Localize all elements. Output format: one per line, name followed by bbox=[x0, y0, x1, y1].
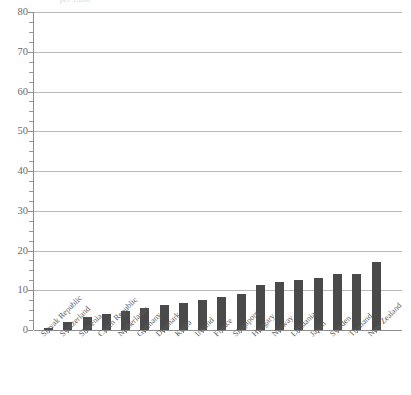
gridline-30 bbox=[34, 211, 402, 212]
y-minor-tick bbox=[29, 32, 33, 33]
gridline-80 bbox=[34, 12, 402, 13]
gridline-70 bbox=[34, 52, 402, 53]
y-minor-tick bbox=[29, 231, 33, 232]
y-tick-label-80: 80 bbox=[4, 7, 28, 17]
y-minor-tick bbox=[29, 270, 33, 271]
y-tick-label-70: 70 bbox=[4, 47, 28, 57]
y-tick-40 bbox=[28, 171, 33, 172]
y-minor-tick bbox=[29, 310, 33, 311]
gridline-20 bbox=[34, 251, 402, 252]
y-minor-tick bbox=[29, 151, 33, 152]
x-axis-labels: Slovak RepublicSwitzerlandSloveniaCzech … bbox=[0, 330, 411, 395]
y-minor-tick bbox=[29, 141, 33, 142]
y-tick-60 bbox=[28, 92, 33, 93]
y-minor-tick bbox=[29, 241, 33, 242]
bar-chart: per 1,000 01020304050607080 Slovak Repub… bbox=[0, 0, 411, 395]
y-tick-label-30: 30 bbox=[4, 206, 28, 216]
y-tick-80 bbox=[28, 12, 33, 13]
gridline-40 bbox=[34, 171, 402, 172]
y-minor-tick bbox=[29, 72, 33, 73]
y-minor-tick bbox=[29, 42, 33, 43]
y-minor-tick bbox=[29, 111, 33, 112]
y-minor-tick bbox=[29, 101, 33, 102]
y-minor-tick bbox=[29, 201, 33, 202]
title-fragment: per 1,000 bbox=[60, 0, 260, 4]
y-minor-tick bbox=[29, 320, 33, 321]
y-tick-label-60: 60 bbox=[4, 87, 28, 97]
y-tick-label-20: 20 bbox=[4, 246, 28, 256]
y-tick-70 bbox=[28, 52, 33, 53]
y-tick-20 bbox=[28, 251, 33, 252]
y-tick-30 bbox=[28, 211, 33, 212]
gridline-50 bbox=[34, 131, 402, 132]
y-minor-tick bbox=[29, 161, 33, 162]
y-minor-tick bbox=[29, 280, 33, 281]
y-tick-50 bbox=[28, 131, 33, 132]
y-minor-tick bbox=[29, 191, 33, 192]
y-minor-tick bbox=[29, 22, 33, 23]
y-minor-tick bbox=[29, 62, 33, 63]
y-minor-tick bbox=[29, 82, 33, 83]
y-minor-tick bbox=[29, 181, 33, 182]
y-tick-10 bbox=[28, 290, 33, 291]
y-tick-label-50: 50 bbox=[4, 126, 28, 136]
y-minor-tick bbox=[29, 300, 33, 301]
y-minor-tick bbox=[29, 221, 33, 222]
y-minor-tick bbox=[29, 260, 33, 261]
gridline-60 bbox=[34, 92, 402, 93]
y-minor-tick bbox=[29, 121, 33, 122]
plot-area bbox=[33, 12, 401, 330]
y-tick-label-40: 40 bbox=[4, 166, 28, 176]
y-tick-label-10: 10 bbox=[4, 285, 28, 295]
gridline-10 bbox=[34, 290, 402, 291]
